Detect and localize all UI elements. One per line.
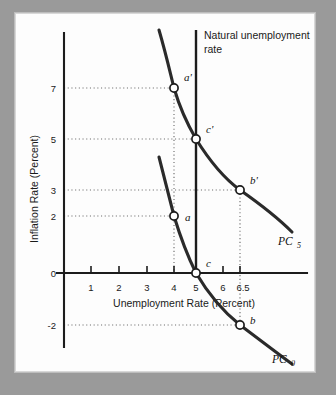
x-tick-label-65: 6.5	[236, 282, 249, 293]
point-label-c: c	[206, 257, 211, 269]
point-label-a-prime: a'	[184, 71, 193, 83]
curve-label-pc5-main: PC	[277, 235, 293, 247]
y-tick-label-3: 3	[51, 185, 56, 196]
pc5-point-markers	[170, 84, 244, 194]
curve-label-pc5: PC 5	[277, 235, 301, 250]
x-tick-label-1: 1	[88, 282, 93, 293]
y-tick-label-0: 0	[51, 268, 56, 279]
point-label-b: b	[250, 314, 256, 326]
point-label-c-prime: c'	[206, 123, 214, 135]
y-tick-label-neg2: -2	[48, 320, 56, 331]
curve-label-pc0: PC 0	[271, 353, 295, 368]
pc0-curve	[159, 157, 292, 364]
y-axis-title: Inflation Rate (Percent)	[28, 135, 40, 243]
point-marker-b	[236, 321, 244, 329]
point-marker-c-prime	[192, 135, 200, 143]
natural-rate-annotation: Natural unemployment rate	[204, 29, 310, 55]
point-marker-a	[170, 212, 178, 220]
curve-label-pc0-sub: 0	[291, 359, 295, 368]
point-label-a: a	[185, 211, 191, 223]
x-tick-label-4: 4	[171, 282, 176, 293]
x-tick-label-2: 2	[116, 282, 121, 293]
figure-panel: 1 2 3 4 5 6 6.5 7 5 3 2 0 -2 Unemploymen…	[15, 13, 315, 372]
x-axis-title: Unemployment Rate (Percent)	[113, 297, 255, 309]
pc0-point-markers	[170, 212, 244, 329]
curve-label-pc5-sub: 5	[297, 241, 301, 250]
phillips-curve-chart: 1 2 3 4 5 6 6.5 7 5 3 2 0 -2 Unemploymen…	[16, 14, 314, 371]
point-marker-b-prime	[236, 186, 244, 194]
point-label-b-prime: b'	[250, 174, 259, 186]
x-tick-label-6: 6	[220, 282, 225, 293]
y-tick-labels: 7 5 3 2 0 -2	[48, 83, 56, 331]
y-tick-label-2: 2	[51, 211, 56, 222]
point-marker-a-prime	[170, 84, 178, 92]
natural-rate-label-line1: Natural unemployment	[204, 29, 310, 41]
x-tick-label-3: 3	[144, 282, 149, 293]
pc5-curve	[159, 30, 292, 232]
y-tick-label-7: 7	[51, 83, 56, 94]
y-tick-label-5: 5	[51, 134, 56, 145]
natural-rate-label-line2: rate	[204, 43, 222, 55]
curve-label-pc0-main: PC	[271, 353, 287, 365]
point-marker-c	[192, 269, 200, 277]
x-tick-label-5: 5	[193, 282, 198, 293]
x-tick-labels: 1 2 3 4 5 6 6.5	[88, 282, 249, 293]
